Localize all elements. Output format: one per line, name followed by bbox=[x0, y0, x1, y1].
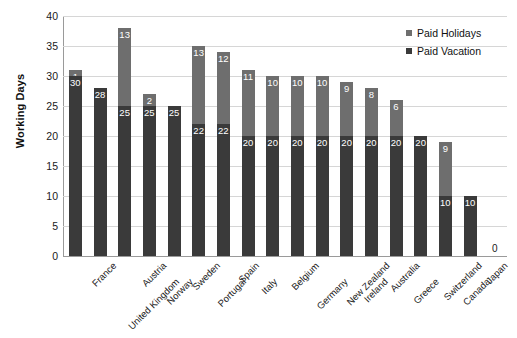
bar-segment-paid-holidays[interactable]: 10 bbox=[266, 76, 279, 136]
square-marker-icon bbox=[406, 30, 412, 36]
bar-column[interactable]: 130 bbox=[69, 70, 82, 256]
bar-segment-paid-vacation[interactable]: 25 bbox=[143, 106, 156, 256]
bar-value-label: 30 bbox=[69, 78, 82, 88]
bar-value-label: 20 bbox=[414, 138, 427, 148]
bar-value-label: 20 bbox=[365, 138, 378, 148]
bar-segment-paid-holidays[interactable]: 11 bbox=[242, 70, 255, 136]
bar-segment-paid-holidays[interactable]: 13 bbox=[118, 28, 131, 106]
chart-legend: Paid Holidays Paid Vacation bbox=[406, 25, 481, 61]
bar-column[interactable]: 1322 bbox=[192, 46, 205, 256]
x-axis-line bbox=[63, 256, 507, 257]
bar-column[interactable]: 225 bbox=[143, 94, 156, 256]
bar-value-label: 22 bbox=[192, 126, 205, 136]
bar-segment-paid-holidays[interactable]: 6 bbox=[390, 100, 403, 136]
bar-segment-paid-vacation[interactable]: 28 bbox=[94, 88, 107, 256]
bar-segment-paid-vacation[interactable]: 20 bbox=[316, 136, 329, 256]
bar-segment-paid-holidays[interactable]: 2 bbox=[143, 94, 156, 106]
bar-value-label: 9 bbox=[340, 84, 353, 94]
bar-segment-paid-holidays[interactable]: 10 bbox=[291, 76, 304, 136]
legend-item-paid-vacation[interactable]: Paid Vacation bbox=[406, 43, 481, 58]
x-axis-category-label: France bbox=[90, 260, 119, 289]
y-axis-tick-labels: 0510152025303540 bbox=[14, 16, 58, 256]
x-axis-category-labels: FranceUnited KingdomAustriaNorwaySwedenP… bbox=[63, 258, 507, 338]
bar-segment-paid-holidays[interactable]: 8 bbox=[365, 88, 378, 136]
bar-segment-paid-vacation[interactable]: 22 bbox=[192, 124, 205, 256]
bar-segment-paid-vacation[interactable]: 20 bbox=[242, 136, 255, 256]
x-axis-category-label: Belgium bbox=[289, 260, 321, 292]
bar-segment-paid-vacation[interactable]: 10 bbox=[439, 196, 452, 256]
bar-column[interactable]: 28 bbox=[94, 88, 107, 256]
y-axis-tick-label: 15 bbox=[18, 160, 58, 172]
bar-value-label: 9 bbox=[439, 144, 452, 154]
bar-value-label: 10 bbox=[291, 78, 304, 88]
y-axis-tick-label: 25 bbox=[18, 100, 58, 112]
bar-segment-paid-holidays[interactable]: 9 bbox=[439, 142, 452, 196]
bar-column[interactable]: 0 bbox=[488, 242, 501, 256]
bar-segment-paid-vacation[interactable]: 25 bbox=[168, 106, 181, 256]
bar-segment-paid-vacation[interactable]: 20 bbox=[390, 136, 403, 256]
bar-value-label: 10 bbox=[464, 198, 477, 208]
bar-column[interactable]: 820 bbox=[365, 88, 378, 256]
bar-value-label: 13 bbox=[118, 30, 131, 40]
bar-segment-paid-vacation[interactable]: 30 bbox=[69, 76, 82, 256]
bar-column[interactable]: 1020 bbox=[291, 76, 304, 256]
bar-segment-paid-holidays[interactable]: 9 bbox=[340, 82, 353, 136]
bar-column[interactable]: 910 bbox=[439, 142, 452, 256]
bar-value-label: 20 bbox=[390, 138, 403, 148]
bar-segment-paid-vacation[interactable]: 20 bbox=[365, 136, 378, 256]
bar-column[interactable]: 620 bbox=[390, 100, 403, 256]
bar-column[interactable]: 1020 bbox=[316, 76, 329, 256]
bar-value-label: 28 bbox=[94, 90, 107, 100]
bar-segment-paid-vacation[interactable]: 20 bbox=[414, 136, 427, 256]
square-marker-icon bbox=[406, 48, 412, 54]
bar-column[interactable]: 1020 bbox=[266, 76, 279, 256]
bar-value-label: 13 bbox=[192, 48, 205, 58]
bar-segment-paid-vacation[interactable]: 22 bbox=[217, 124, 230, 256]
x-axis-category-label: Japan bbox=[484, 260, 510, 286]
bar-value-label: 25 bbox=[143, 108, 156, 118]
bar-value-label: 20 bbox=[291, 138, 304, 148]
bar-segment-paid-vacation[interactable]: 20 bbox=[340, 136, 353, 256]
bar-segment-paid-vacation[interactable]: 20 bbox=[291, 136, 304, 256]
stacked-bar-chart: Working Days 0510152025303540 1302813252… bbox=[0, 0, 517, 338]
bar-value-label: 20 bbox=[340, 138, 353, 148]
bar-column[interactable]: 920 bbox=[340, 82, 353, 256]
y-axis-tick-label: 10 bbox=[18, 190, 58, 202]
x-axis-category-label: Greece bbox=[411, 276, 441, 306]
legend-item-paid-holidays[interactable]: Paid Holidays bbox=[406, 25, 481, 40]
legend-item-label: Paid Vacation bbox=[417, 45, 481, 57]
bar-segment-paid-holidays[interactable]: 10 bbox=[316, 76, 329, 136]
bar-value-label: 11 bbox=[242, 72, 255, 82]
bar-value-label: 22 bbox=[217, 126, 230, 136]
bar-column[interactable]: 1120 bbox=[242, 70, 255, 256]
x-axis-category-label: Spain bbox=[236, 260, 261, 285]
y-axis-tick-label: 20 bbox=[18, 130, 58, 142]
bar-column[interactable]: 1325 bbox=[118, 28, 131, 256]
bar-value-label: 10 bbox=[316, 78, 329, 88]
bar-value-label: 10 bbox=[439, 198, 452, 208]
bar-value-label: 2 bbox=[143, 96, 156, 106]
bar-segment-paid-vacation[interactable]: 25 bbox=[118, 106, 131, 256]
bar-value-label: 20 bbox=[242, 138, 255, 148]
bar-column[interactable]: 1222 bbox=[217, 52, 230, 256]
bar-value-label: 8 bbox=[365, 90, 378, 100]
bar-value-label: 25 bbox=[168, 108, 181, 118]
x-axis-category-label: Sweden bbox=[190, 260, 222, 292]
bar-segment-paid-holidays[interactable]: 12 bbox=[217, 52, 230, 124]
bar-column[interactable]: 10 bbox=[464, 196, 477, 256]
bar-column[interactable]: 25 bbox=[168, 106, 181, 256]
x-axis-category-label: Germany bbox=[315, 276, 350, 311]
bar-column[interactable]: 20 bbox=[414, 136, 427, 256]
bar-value-label: 12 bbox=[217, 54, 230, 64]
bar-segment-paid-holidays[interactable]: 13 bbox=[192, 46, 205, 124]
y-axis-tick-label: 35 bbox=[18, 40, 58, 52]
bar-value-label: 20 bbox=[266, 138, 279, 148]
x-axis-category-label: Australia bbox=[388, 260, 422, 294]
bar-segment-paid-vacation[interactable]: 20 bbox=[266, 136, 279, 256]
bar-segment-paid-vacation[interactable]: 10 bbox=[464, 196, 477, 256]
bar-value-label: 25 bbox=[118, 108, 131, 118]
y-axis-tick-label: 30 bbox=[18, 70, 58, 82]
y-axis-tick-label: 40 bbox=[18, 10, 58, 22]
bar-value-label: 20 bbox=[316, 138, 329, 148]
bar-value-label-zero: 0 bbox=[488, 243, 501, 254]
